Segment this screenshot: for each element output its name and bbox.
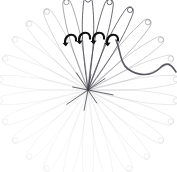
petal-tip-marker xyxy=(27,21,32,26)
petal-tip-marker xyxy=(3,119,8,124)
petal-tip-marker xyxy=(144,154,149,159)
petal-tip-marker xyxy=(64,0,69,5)
petal-loop xyxy=(82,0,93,90)
petal-loop xyxy=(63,90,88,172)
petal-tip-marker xyxy=(158,37,163,42)
sweep-path xyxy=(116,40,176,75)
petal-tip-marker xyxy=(27,154,32,159)
petal-tip-marker xyxy=(107,0,112,5)
petal-tip-marker xyxy=(145,20,150,25)
diagram-canvas xyxy=(0,0,177,172)
petal-tip-marker xyxy=(3,56,8,61)
petal-tip-marker xyxy=(173,98,177,103)
petal-tip-marker xyxy=(44,166,49,171)
petal-tip-marker xyxy=(0,77,3,82)
rotation-arrow-group xyxy=(62,33,118,46)
petal-loop xyxy=(88,90,113,172)
petal-tip-marker xyxy=(127,166,132,171)
petal-loop xyxy=(12,37,88,90)
rotation-arrow-head xyxy=(62,42,68,46)
petal-tip-marker xyxy=(158,138,163,143)
petal-tip-marker xyxy=(127,7,132,12)
petal-tip-marker xyxy=(173,77,177,82)
petal-tip-marker xyxy=(168,56,173,61)
rotation-arrow xyxy=(90,33,104,44)
rotation-arrow-head xyxy=(90,40,96,44)
petal-tip-marker xyxy=(168,119,173,124)
petal-tip-marker xyxy=(13,37,18,42)
petal-tip-marker xyxy=(13,138,18,143)
petal-loop xyxy=(88,90,164,143)
petal-tip-marker xyxy=(0,98,3,103)
petal-loop xyxy=(26,90,88,159)
radial-petal-svg xyxy=(0,0,177,172)
petal-loop xyxy=(26,21,88,90)
petal-tip-marker xyxy=(44,9,49,14)
petal-tip-marker xyxy=(85,0,90,2)
petal-loop xyxy=(88,90,150,159)
petal-loop xyxy=(88,0,113,90)
